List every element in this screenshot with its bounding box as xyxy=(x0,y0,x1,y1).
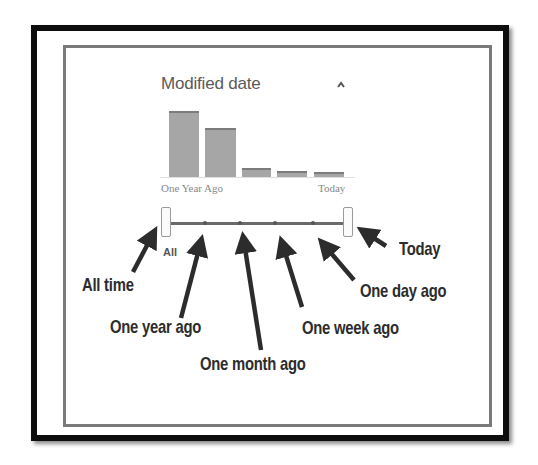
annotation-one-year-ago: One year ago xyxy=(110,316,201,338)
annotation-one-week-ago: One week ago xyxy=(302,317,399,339)
slider-handle-max[interactable] xyxy=(343,207,353,237)
annotation-all-time: All time xyxy=(82,274,134,296)
annotation-today: Today xyxy=(399,238,440,260)
annotation-one-day-ago: One day ago xyxy=(360,280,446,302)
histogram-baseline xyxy=(160,177,355,178)
histogram-bar[interactable] xyxy=(205,128,236,177)
axis-label-left: One Year Ago xyxy=(161,182,223,194)
annotation-one-month-ago: One month ago xyxy=(200,353,306,375)
slider-tick[interactable] xyxy=(238,221,242,225)
panel-title: Modified date xyxy=(161,74,260,94)
slider-track[interactable] xyxy=(166,222,348,225)
histogram-bar[interactable] xyxy=(169,111,199,177)
slider-tick[interactable] xyxy=(311,221,315,225)
chevron-up-icon[interactable] xyxy=(336,80,346,90)
slider-handle-min[interactable] xyxy=(161,207,171,237)
histogram-bar[interactable] xyxy=(242,168,271,177)
slider-tick[interactable] xyxy=(203,221,207,225)
slider-tick[interactable] xyxy=(273,221,277,225)
slider-min-label: All xyxy=(163,246,177,258)
axis-label-right: Today xyxy=(318,182,345,194)
